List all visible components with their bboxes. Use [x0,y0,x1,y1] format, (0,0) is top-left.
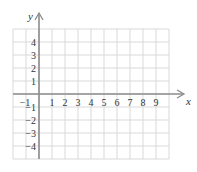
x-tick-label: 3 [76,97,81,108]
y-axis-label: y [27,10,33,22]
x-tick-label: 6 [115,97,120,108]
x-axis-label: x [185,95,191,107]
x-tick-label: 7 [128,97,133,108]
y-tick-label: −1 [25,102,36,113]
x-tick-label: 2 [63,97,68,108]
x-tick-labels: −1123456789 [20,97,159,108]
axes [13,13,184,159]
y-tick-label: −2 [25,115,36,126]
x-tick-label: 9 [154,97,159,108]
x-tick-label: 4 [89,97,94,108]
y-tick-label: −4 [25,141,36,152]
y-tick-label: 2 [31,63,36,74]
coordinate-grid: −1123456789 4321−1−2−3−4 x y [0,0,197,172]
y-tick-label: 4 [31,37,36,48]
x-tick-label: 1 [50,97,55,108]
x-tick-label: 5 [102,97,107,108]
y-tick-label: −3 [25,128,36,139]
y-tick-label: 1 [31,76,36,87]
y-tick-label: 3 [31,50,36,61]
x-tick-label: 8 [141,97,146,108]
